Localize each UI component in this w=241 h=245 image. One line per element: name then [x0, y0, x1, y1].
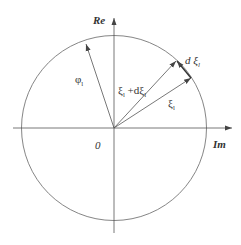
origin-label: 0	[95, 139, 101, 151]
im-axis-label: Im	[212, 138, 226, 150]
phi-label: φl	[75, 73, 83, 88]
dxi-label: d ξl	[185, 54, 200, 69]
phi-vector	[86, 44, 114, 128]
phasor-diagram: Re Im 0 φl ξl +dξl ξl d ξl	[0, 0, 241, 245]
xi-plus-dxi-label: ξl +dξl	[118, 84, 146, 99]
re-axis-label: Re	[92, 14, 105, 26]
xi-label: ξl	[168, 97, 175, 112]
